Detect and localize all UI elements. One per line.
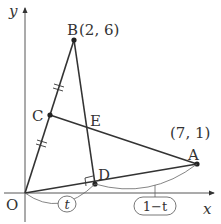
point-B-label: B [67,21,78,39]
brace-DA [95,164,197,189]
point-D-label: D [98,166,110,184]
y-axis-label: y [8,2,18,20]
x-axis-label: x [203,200,212,218]
point-C [47,112,52,117]
ratio-1-minus-t-label: 1−t [143,199,168,214]
point-A-coords: (7, 1) [170,124,210,142]
coordinate-diagram: t 1−t y x O B (2, 6) C E D (7, 1) A [0,0,221,224]
origin-label: O [6,196,18,214]
point-B-coords: (2, 6) [79,21,119,39]
segment-OA [25,164,197,193]
point-C-label: C [32,107,43,125]
point-E-label: E [90,112,101,130]
point-A-label: A [187,146,199,164]
ratio-t-label: t [64,197,70,212]
